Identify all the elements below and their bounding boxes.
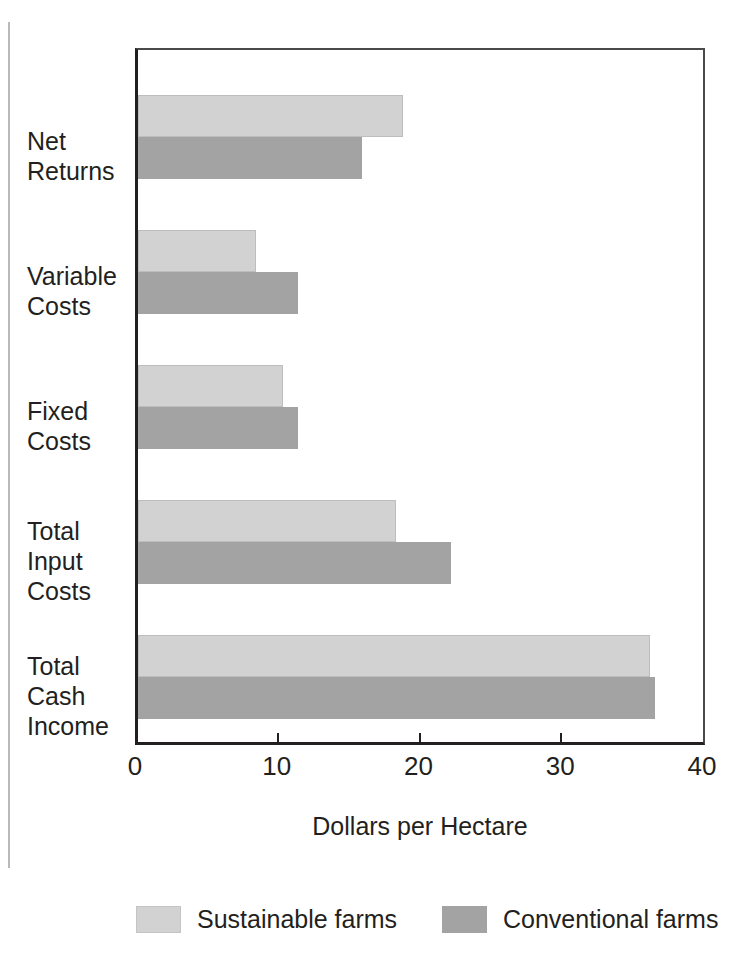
- bar-total-cash-income-conventional-farms: [138, 677, 655, 719]
- bar-variable-costs-sustainable-farms: [138, 230, 256, 272]
- bar-fixed-costs-sustainable-farms: [138, 365, 283, 407]
- category-label-line: Returns: [27, 156, 135, 186]
- x-axis-tick-20: [419, 733, 421, 745]
- category-label-total-cash-income: Total Cash Income: [17, 651, 135, 741]
- x-axis-tick-label-0: 0: [128, 751, 142, 781]
- category-label-line: Input: [27, 546, 135, 576]
- legend-item-sustainable-farms[interactable]: Sustainable farms: [136, 898, 397, 940]
- category-label-net-returns: Net Returns: [17, 126, 135, 186]
- category-label-line: Cash: [27, 681, 135, 711]
- category-label-line: Total: [27, 651, 135, 681]
- category-axis-labels: Net Returns Variable Costs Fixed Costs T…: [8, 48, 135, 745]
- bar-fixed-costs-conventional-farms: [138, 407, 298, 449]
- x-axis-title: Dollars per Hectare: [135, 812, 705, 841]
- bar-total-input-costs-sustainable-farms: [138, 500, 396, 542]
- legend-item-conventional-farms[interactable]: Conventional farms: [442, 898, 718, 940]
- category-label-line: Costs: [27, 291, 135, 321]
- x-axis: 010203040: [135, 745, 705, 805]
- category-label-line: Fixed: [27, 396, 135, 426]
- bar-chart-figure: Net Returns Variable Costs Fixed Costs T…: [0, 0, 756, 956]
- category-label-line: Costs: [27, 426, 135, 456]
- category-label-variable-costs: Variable Costs: [17, 261, 135, 321]
- x-axis-tick-10: [277, 733, 279, 745]
- legend-label: Conventional farms: [503, 905, 718, 934]
- legend-swatch-icon: [442, 906, 487, 933]
- category-label-fixed-costs: Fixed Costs: [17, 396, 135, 456]
- x-axis-tick-label-40: 40: [688, 751, 717, 781]
- category-label-line: Total: [27, 516, 135, 546]
- legend-swatch-icon: [136, 906, 181, 933]
- category-label-line: Costs: [27, 576, 135, 606]
- chart-legend: Sustainable farms Conventional farms: [130, 898, 740, 940]
- category-label-total-input-costs: Total Input Costs: [17, 516, 135, 606]
- bar-net-returns-sustainable-farms: [138, 95, 403, 137]
- x-axis-tick-30: [560, 733, 562, 745]
- x-axis-tick-label-30: 30: [546, 751, 575, 781]
- x-axis-tick-label-20: 20: [404, 751, 433, 781]
- x-axis-tick-label-10: 10: [262, 751, 291, 781]
- category-label-line: Variable: [27, 261, 135, 291]
- legend-label: Sustainable farms: [197, 905, 397, 934]
- bar-total-input-costs-conventional-farms: [138, 542, 451, 584]
- bar-variable-costs-conventional-farms: [138, 272, 298, 314]
- category-label-line: Net: [27, 126, 135, 156]
- category-label-line: Income: [27, 711, 135, 741]
- plot-area: [135, 48, 705, 745]
- bar-net-returns-conventional-farms: [138, 137, 362, 179]
- bar-total-cash-income-sustainable-farms: [138, 635, 650, 677]
